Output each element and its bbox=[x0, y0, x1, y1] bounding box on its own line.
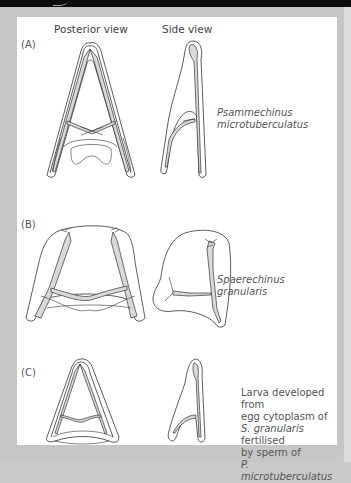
top-bar bbox=[0, 0, 351, 7]
panel-a-caption-line-2: microtuberculatus bbox=[217, 119, 308, 131]
panel-c-caption-line-5: P. microtuberculatus bbox=[241, 459, 337, 483]
frame-edge bbox=[344, 7, 351, 462]
panel-c-caption-line-4: by sperm of bbox=[241, 447, 337, 459]
species-name-s-granularis: S. granularis bbox=[241, 423, 304, 434]
panel-b-caption: Spaerechinus granularis bbox=[217, 274, 285, 298]
panel-c-caption-line-2: egg cytoplasm of bbox=[241, 411, 337, 423]
panel-b-posterior-drawing bbox=[21, 222, 146, 322]
panel-label-a: (A) bbox=[21, 39, 36, 50]
panel-a-caption-line-1: Psammechinus bbox=[217, 107, 308, 119]
panel-a-posterior-drawing bbox=[37, 39, 147, 179]
panel-b-caption-line-2: granularis bbox=[217, 286, 285, 298]
panel-a-side-drawing bbox=[157, 39, 217, 179]
caption-fertilised: fertilised bbox=[241, 435, 285, 446]
panel-b-caption-line-1: Spaerechinus bbox=[217, 274, 285, 286]
figure-card: Posterior view Side view (A) Psammechinu… bbox=[17, 17, 337, 445]
panel-label-c: (C) bbox=[21, 367, 36, 378]
panel-c-posterior-drawing bbox=[43, 357, 123, 445]
panel-c-caption-line-1: Larva developed from bbox=[241, 387, 337, 411]
panel-c-side-drawing bbox=[165, 357, 215, 445]
panel-c-caption: Larva developed from egg cytoplasm of S.… bbox=[241, 387, 337, 483]
header-decoration bbox=[52, 0, 69, 6]
panel-a-caption: Psammechinus microtuberculatus bbox=[217, 107, 308, 131]
panel-c-caption-line-3: S. granularis fertilised bbox=[241, 423, 337, 447]
column-header-posterior: Posterior view bbox=[54, 23, 128, 35]
column-header-side: Side view bbox=[162, 23, 212, 35]
